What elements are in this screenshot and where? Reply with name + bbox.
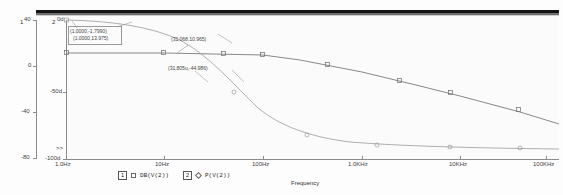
legend-marker-square <box>131 173 136 178</box>
series-magnitude <box>65 51 560 125</box>
cursor-label-3: (31.068,10.965) <box>171 36 206 42</box>
legend: 1 DB(V(2)) 2 P(V(2)) <box>118 171 230 180</box>
cursor-label-2: (1.0000,13.975) <box>73 35 108 41</box>
legend-label-1[interactable]: DB(V(2)) <box>140 172 169 179</box>
legend-label-2[interactable]: P(V(2)) <box>205 172 230 179</box>
probe-plot-window: 1 40 0 -40 -80 2 0d -50d -100d >> 1.0Hz … <box>0 0 563 195</box>
legend-marker-diamond <box>195 172 202 179</box>
legend-axis-number-2[interactable]: 2 <box>183 171 192 180</box>
series-phase <box>65 18 560 150</box>
cursor-label-4: (31.805u,-44.986) <box>168 65 208 71</box>
legend-axis-number-1[interactable]: 1 <box>118 171 127 180</box>
cursor-label-1: (1.0000,-1.7990) <box>70 28 107 34</box>
